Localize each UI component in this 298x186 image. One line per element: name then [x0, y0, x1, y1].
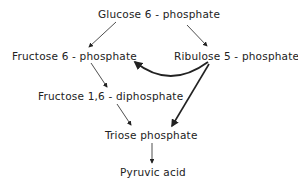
node-glucose-6-phosphate: Glucose 6 - phosphate [98, 8, 220, 20]
pathway-diagram: Glucose 6 - phosphate Fructose 6 - phosp… [0, 0, 298, 186]
arrow-ribulose-to-fructose6p [135, 62, 208, 76]
node-pyruvic-acid: Pyruvic acid [120, 166, 186, 178]
arrow-fructose6p-to-f16dp [91, 63, 107, 87]
node-triose-phosphate: Triose phosphate [105, 129, 198, 141]
arrow-glucose-to-ribulose [187, 25, 207, 46]
arrow-glucose-to-fructose6p [89, 22, 116, 47]
node-ribulose-5-phosphate: Ribulose 5 - phosphate [174, 50, 298, 62]
arrow-f16dp-to-triose [117, 104, 131, 125]
node-fructose-1-6-diphosphate: Fructose 1,6 - diphosphate [38, 90, 183, 102]
node-fructose-6-phosphate: Fructose 6 - phosphate [12, 50, 137, 62]
